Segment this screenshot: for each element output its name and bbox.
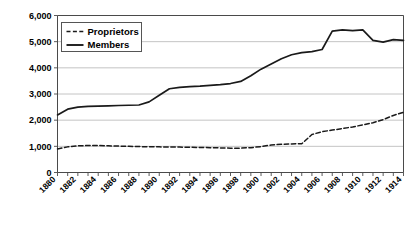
x-tick-label: 1904 — [281, 174, 302, 195]
x-tick-label: 1890 — [139, 174, 160, 195]
series-line-proprietors — [58, 112, 404, 149]
x-tick-label: 1884 — [78, 174, 99, 195]
y-tick-label: 6,000 — [29, 11, 52, 21]
x-axis-tick-labels: 1880188218841886188818901892189418961898… — [37, 174, 404, 195]
chart-container: 01,0002,0003,0004,0005,0006,000 18801882… — [0, 0, 417, 236]
legend-label-members: Members — [88, 39, 130, 50]
x-tick-label: 1914 — [383, 174, 404, 195]
x-tick-label: 1882 — [57, 174, 78, 195]
x-tick-label: 1896 — [200, 174, 221, 195]
x-tick-label: 1900 — [240, 174, 261, 195]
x-tick-label: 1908 — [322, 174, 343, 195]
y-tick-label: 3,000 — [29, 89, 52, 99]
x-tick-label: 1880 — [37, 174, 58, 195]
y-tick-label: 1,000 — [29, 142, 52, 152]
y-tick-label: 5,000 — [29, 37, 52, 47]
line-chart: 01,0002,0003,0004,0005,0006,000 18801882… — [0, 0, 417, 236]
y-axis-tick-labels: 01,0002,0003,0004,0005,0006,000 — [29, 11, 52, 178]
x-tick-label: 1888 — [118, 174, 139, 195]
x-tick-label: 1906 — [302, 174, 323, 195]
legend-label-proprietors: Proprietors — [88, 26, 139, 37]
x-tick-label: 1892 — [159, 174, 180, 195]
x-tick-label: 1894 — [179, 174, 200, 195]
y-tick-label: 2,000 — [29, 115, 52, 125]
chart-legend: ProprietorsMembers — [62, 23, 142, 52]
x-tick-label: 1910 — [342, 174, 363, 195]
x-tick-label: 1886 — [98, 174, 119, 195]
y-tick-label: 4,000 — [29, 63, 52, 73]
x-tick-label: 1898 — [220, 174, 241, 195]
x-tick-label: 1902 — [261, 174, 282, 195]
x-tick-label: 1912 — [363, 174, 384, 195]
